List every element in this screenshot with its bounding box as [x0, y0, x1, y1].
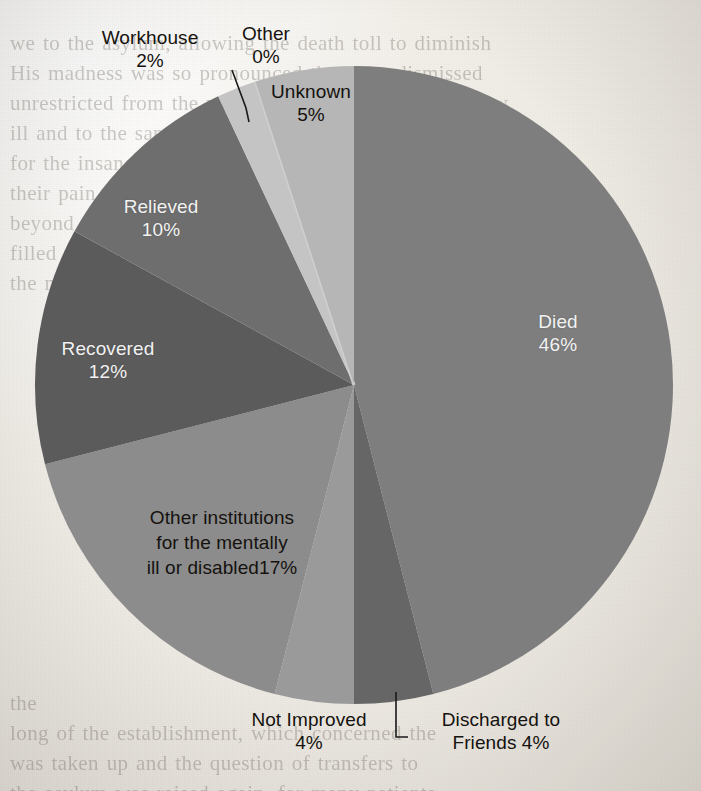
pie-svg: [0, 0, 701, 791]
pie-chart: Died46% Discharged toFriends 4% Not Impr…: [0, 0, 701, 791]
pie-slice-group: [35, 66, 673, 704]
